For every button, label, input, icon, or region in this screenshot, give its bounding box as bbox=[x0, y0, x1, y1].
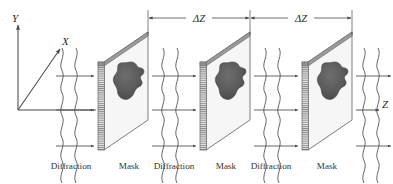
mask-plane-3 bbox=[302, 32, 352, 150]
dimension-label-2: ΔZ bbox=[294, 13, 307, 24]
mask-edge-top-1 bbox=[98, 62, 104, 66]
caption-diffraction-1: Diffraction bbox=[51, 161, 92, 171]
mask-edge-strip-2 bbox=[200, 62, 207, 150]
caption-diffraction-3: Diffraction bbox=[251, 161, 292, 171]
caption-diffraction-2: Diffraction bbox=[154, 161, 195, 171]
coordinate-axes bbox=[18, 25, 96, 110]
y-axis-label: Y bbox=[12, 12, 20, 24]
mask-plane-2 bbox=[200, 32, 250, 150]
mask-plane-1 bbox=[98, 32, 148, 150]
mask-edge-top-3 bbox=[302, 62, 308, 66]
mask-edge-strip-3 bbox=[302, 62, 309, 150]
dimension-label-1: ΔZ bbox=[192, 13, 205, 24]
mask-edge-strip-1 bbox=[98, 62, 105, 150]
dimension-delta-z-2: ΔZ bbox=[251, 13, 351, 24]
dimension-delta-z-1: ΔZ bbox=[149, 13, 249, 24]
diffraction-mask-cascade-diagram: Y X bbox=[0, 0, 393, 184]
x-axis-label: X bbox=[61, 35, 70, 47]
caption-mask-3: Mask bbox=[317, 161, 338, 171]
mask-edge-top-2 bbox=[200, 62, 206, 66]
caption-mask-2: Mask bbox=[216, 161, 237, 171]
diagram-canvas: Y X bbox=[0, 0, 393, 184]
caption-mask-1: Mask bbox=[119, 161, 140, 171]
diffraction-zone-4 bbox=[356, 48, 391, 183]
x-axis-line bbox=[18, 49, 60, 110]
dimension-extension-lines bbox=[148, 10, 352, 35]
z-axis-label: Z bbox=[382, 98, 389, 110]
